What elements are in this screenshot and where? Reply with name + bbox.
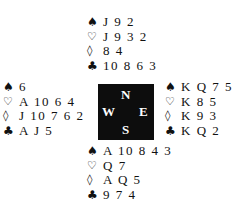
west-hearts-cards: A 10 6 4 [19,95,75,110]
club-icon: ♣ [3,124,19,139]
club-icon: ♣ [87,59,103,74]
south-hearts-row: ♡ Q 7 [87,159,172,174]
south-clubs-row: ♣ 9 7 4 [87,188,172,203]
south-hand: ♠ A 10 8 4 3 ♡ Q 7 ◊ A Q 5 ♣ 9 7 4 [87,144,172,202]
compass-east-label: E [139,105,148,118]
heart-icon: ♡ [3,95,19,110]
south-clubs-cards: 9 7 4 [103,188,137,203]
west-spades-row: ♠ 6 [3,80,85,95]
south-diamonds-cards: A Q 5 [103,173,142,188]
north-hearts-cards: J 9 3 2 [103,30,148,45]
south-hearts-cards: Q 7 [103,159,127,174]
heart-icon: ♡ [165,95,181,110]
compass-north-label: N [121,88,130,101]
compass-west-label: W [102,105,115,118]
north-spades-cards: J 9 2 [103,15,135,30]
north-hearts-row: ♡ J 9 3 2 [87,30,157,45]
south-spades-row: ♠ A 10 8 4 3 [87,144,172,159]
west-clubs-row: ♣ A J 5 [3,124,85,139]
diamond-icon: ◊ [3,109,19,124]
north-spades-row: ♠ J 9 2 [87,15,157,30]
club-icon: ♣ [165,124,181,139]
compass-table: N W E S [98,84,154,140]
compass-south-label: S [122,123,129,136]
west-hearts-row: ♡ A 10 6 4 [3,95,85,110]
club-icon: ♣ [87,188,103,203]
west-clubs-cards: A J 5 [19,124,53,139]
east-hearts-row: ♡ K 8 5 [165,95,233,110]
spade-icon: ♠ [87,15,103,30]
north-diamonds-row: ◊ 8 4 [87,44,157,59]
east-diamonds-cards: K 9 3 [181,109,217,124]
east-spades-row: ♠ K Q 7 5 [165,80,233,95]
west-diamonds-cards: J 10 7 6 2 [19,109,85,124]
south-diamonds-row: ◊ A Q 5 [87,173,172,188]
east-diamonds-row: ◊ K 9 3 [165,109,233,124]
north-clubs-cards: 10 8 6 3 [103,59,157,74]
east-spades-cards: K Q 7 5 [181,80,233,95]
heart-icon: ♡ [87,30,103,45]
spade-icon: ♠ [165,80,181,95]
east-hand: ♠ K Q 7 5 ♡ K 8 5 ◊ K 9 3 ♣ K Q 2 [165,80,233,138]
heart-icon: ♡ [87,159,103,174]
spade-icon: ♠ [87,144,103,159]
west-hand: ♠ 6 ♡ A 10 6 4 ◊ J 10 7 6 2 ♣ A J 5 [3,80,85,138]
south-spades-cards: A 10 8 4 3 [103,144,172,159]
north-hand: ♠ J 9 2 ♡ J 9 3 2 ◊ 8 4 ♣ 10 8 6 3 [87,15,157,73]
spade-icon: ♠ [3,80,19,95]
diamond-icon: ◊ [87,173,103,188]
north-clubs-row: ♣ 10 8 6 3 [87,59,157,74]
west-diamonds-row: ◊ J 10 7 6 2 [3,109,85,124]
east-hearts-cards: K 8 5 [181,95,217,110]
east-clubs-cards: K Q 2 [181,124,220,139]
diamond-icon: ◊ [87,44,103,59]
west-spades-cards: 6 [19,80,27,95]
east-clubs-row: ♣ K Q 2 [165,124,233,139]
north-diamonds-cards: 8 4 [103,44,124,59]
diamond-icon: ◊ [165,109,181,124]
